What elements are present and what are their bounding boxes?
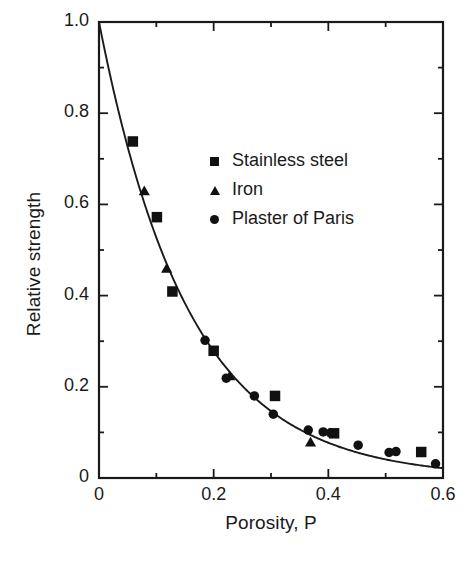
x-tick-label: 0 <box>69 484 129 505</box>
data-point-triangle <box>305 437 316 447</box>
data-point-circle <box>353 440 363 450</box>
legend-label: Stainless steel <box>228 150 348 171</box>
y-tick-label: 0.4 <box>29 284 89 305</box>
data-point-circle <box>304 425 314 435</box>
data-point-square <box>167 286 178 297</box>
x-tick-label: 0.4 <box>298 484 358 505</box>
data-point-circle <box>250 391 260 401</box>
legend-item-stainless-steel: Stainless steel <box>206 148 354 173</box>
figure: Relative strength Porosity, P 00.20.40.6… <box>0 0 474 579</box>
x-tick-label: 0.6 <box>413 484 473 505</box>
data-point-circle <box>326 428 336 438</box>
legend-label: Plaster of Paris <box>228 208 354 229</box>
data-point-circle <box>200 336 210 346</box>
data-point-square <box>208 346 219 357</box>
legend-item-iron: Iron <box>206 177 354 202</box>
y-tick-label: 0.8 <box>29 101 89 122</box>
axes-frame <box>99 22 443 478</box>
x-axis-label: Porosity, P <box>99 512 443 534</box>
circle-marker-icon <box>206 212 228 226</box>
y-tick-label: 0.6 <box>29 192 89 213</box>
legend-item-plaster-of-paris: Plaster of Paris <box>206 206 354 231</box>
data-point-circle <box>222 373 232 383</box>
y-tick-label: 1.0 <box>29 10 89 31</box>
data-point-circle <box>269 409 279 419</box>
square-marker-icon <box>206 154 228 168</box>
axis-ticks <box>99 22 443 478</box>
data-point-circle <box>391 447 401 457</box>
data-point-square <box>270 391 281 402</box>
data-point-triangle <box>161 263 172 273</box>
fit-curve <box>99 22 443 468</box>
data-point-square <box>152 212 163 223</box>
data-point-circle <box>431 459 441 469</box>
legend: Stainless steel Iron Plaster of Paris <box>206 148 354 235</box>
y-tick-label: 0.2 <box>29 375 89 396</box>
x-tick-label: 0.2 <box>184 484 244 505</box>
legend-label: Iron <box>228 179 263 200</box>
y-tick-label: 0 <box>29 466 89 487</box>
data-point-square <box>128 136 138 147</box>
triangle-marker-icon <box>206 183 228 197</box>
data-point-square <box>416 447 427 458</box>
